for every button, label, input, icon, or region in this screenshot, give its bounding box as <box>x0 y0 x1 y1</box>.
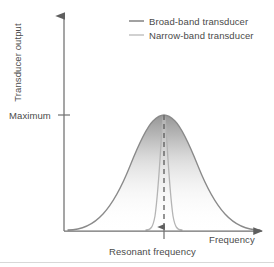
legend-label-narrow-band: Narrow-band transducer <box>149 30 254 41</box>
y-axis-label: Transducer output <box>12 13 23 113</box>
x-axis-label: Frequency <box>209 234 255 245</box>
resonant-frequency-label: Resonant frequency <box>109 246 196 257</box>
legend-label-broad-band: Broad-band transducer <box>149 16 248 27</box>
y-axis-tick-label-maximum: Maximum <box>9 110 51 121</box>
chart-figure: Transducer output Maximum Frequency Reso… <box>0 0 274 267</box>
bottom-divider <box>0 262 274 263</box>
